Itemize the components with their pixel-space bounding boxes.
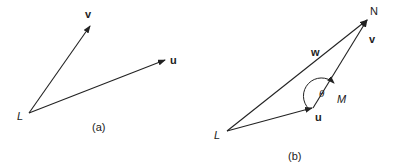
vector-u-arrow [227,108,312,131]
vector-u-arrow [29,60,165,113]
label-L: L [214,129,220,141]
label-v: v [369,33,376,45]
label-theta: θ [319,87,325,99]
vector-diagram: v u L (a) N v w θ M u L (b) [0,0,395,164]
label-M: M [337,93,347,105]
label-N: N [370,5,378,17]
label-L: L [17,110,23,122]
vector-w-arrow [227,20,367,131]
caption-b: (b) [288,150,301,162]
label-v: v [85,8,92,20]
figure-a: v u L (a) [17,8,177,133]
figure-b: N v w θ M u L (b) [214,5,378,162]
label-u: u [170,54,177,66]
caption-a: (a) [92,121,105,133]
label-w: w [310,46,320,58]
vector-v-arrow [29,26,90,113]
label-u: u [315,111,322,123]
